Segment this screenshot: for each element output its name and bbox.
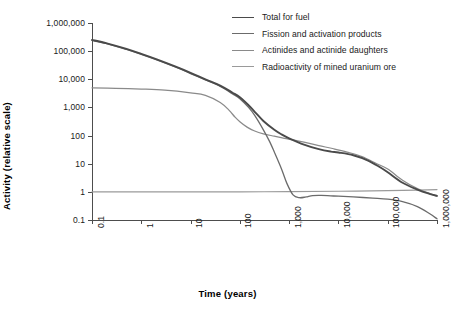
x-tick-label: 1,000	[293, 206, 303, 228]
x-tick-label: 100	[243, 214, 253, 228]
legend-item: Total for fuel	[232, 9, 452, 26]
chart-legend: Total for fuelFission and activation pro…	[232, 9, 452, 75]
legend-swatch-line-icon	[232, 33, 254, 34]
legend-item-label: Actinides and actinide daughters	[262, 45, 388, 55]
x-tick-label: 1,000,000	[441, 189, 451, 228]
y-tick-label: 100,000	[0, 46, 85, 56]
y-tick-label: 1,000	[0, 102, 85, 112]
legend-item: Radioactivity of mined uranium ore	[232, 59, 452, 76]
chart-screenshot: 1,000,000100,00010,0001,0001001010.1 0.1…	[0, 0, 455, 312]
x-tick-label: 10,000	[342, 201, 352, 228]
legend-item: Fission and activation products	[232, 26, 452, 43]
legend-swatch-line-icon	[232, 50, 254, 51]
series-line-actinides-and-actinide-daughters	[92, 88, 437, 196]
legend-swatch-line-icon	[232, 17, 254, 18]
x-tick-label: 100,000	[391, 197, 401, 228]
x-tick-label: 10	[194, 218, 204, 228]
y-tick-label: 1,000,000	[0, 18, 85, 28]
legend-item-label: Total for fuel	[262, 12, 310, 22]
x-tick-label: 1	[145, 223, 155, 228]
legend-item-label: Radioactivity of mined uranium ore	[262, 62, 396, 72]
y-tick-label: 1	[0, 187, 85, 197]
y-tick-label: 0.1	[0, 215, 85, 225]
series-line-radioactivity-of-mined-uranium-ore	[92, 190, 437, 192]
legend-item: Actinides and actinide daughters	[232, 42, 452, 59]
legend-item-label: Fission and activation products	[262, 29, 382, 39]
legend-swatch-line-icon	[232, 66, 254, 67]
x-tick-label: 0.1	[96, 216, 106, 228]
y-tick-label: 10	[0, 159, 85, 169]
x-axis-title: Time (years)	[0, 288, 455, 299]
y-axis-title: Activity (relative scale)	[1, 102, 12, 210]
y-tick-label: 10,000	[0, 74, 85, 84]
y-tick-label: 100	[0, 131, 85, 141]
